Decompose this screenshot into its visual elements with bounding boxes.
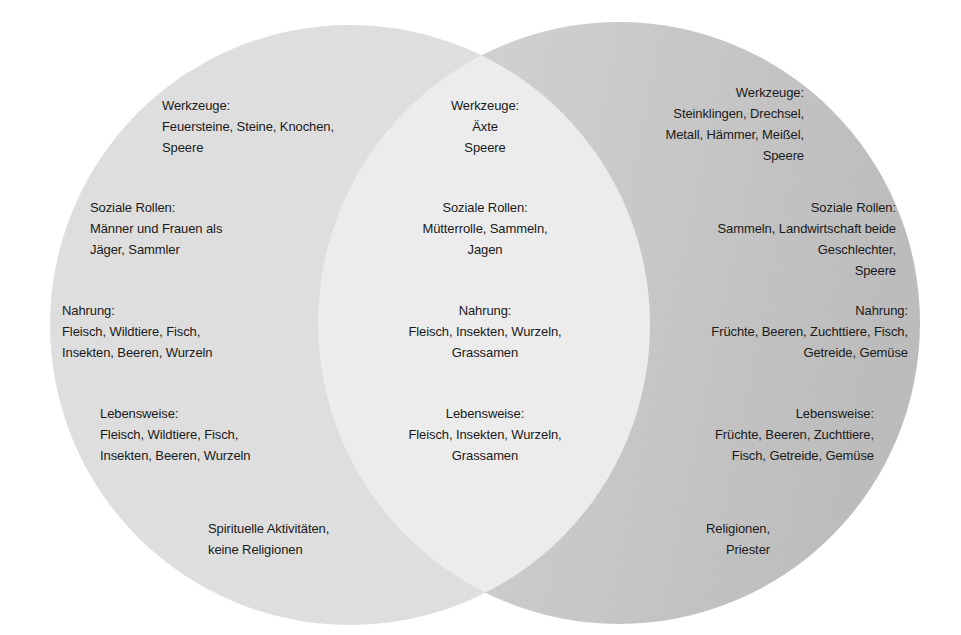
label-text: Metall, Hämmer, Meißel, [665, 124, 804, 145]
label-text: Sammeln, Landwirtschaft beide [718, 218, 896, 239]
label-text: Fleisch, Wildtiere, Fisch, [100, 424, 250, 445]
label-text: Speere [385, 137, 585, 158]
label-text: Speere [665, 145, 804, 166]
right-lebensweise: Lebensweise: Früchte, Beeren, Zuchttiere… [715, 403, 874, 466]
label-text: Fleisch, Wildtiere, Fisch, [62, 321, 212, 342]
label-text: Äxte [385, 116, 585, 137]
left-lebensweise: Lebensweise: Fleisch, Wildtiere, Fisch, … [100, 403, 250, 466]
left-werkzeuge: Werkzeuge: Feuersteine, Steine, Knochen,… [162, 95, 334, 158]
label-title: Werkzeuge: [385, 95, 585, 116]
label-title: Soziale Rollen: [90, 197, 222, 218]
label-text: Mütterrolle, Sammeln, [385, 218, 585, 239]
overlap-nahrung: Nahrung: Fleisch, Insekten, Wurzeln, Gra… [385, 300, 585, 363]
label-text: Geschlechter, [718, 239, 896, 260]
left-nahrung: Nahrung: Fleisch, Wildtiere, Fisch, Inse… [62, 300, 212, 363]
label-text: Religionen, [706, 518, 770, 539]
right-nahrung: Nahrung: Früchte, Beeren, Zuchttiere, Fi… [711, 300, 908, 363]
right-werkzeuge: Werkzeuge: Steinklingen, Drechsel, Metal… [665, 82, 804, 166]
label-title: Werkzeuge: [665, 82, 804, 103]
label-text: Jäger, Sammler [90, 239, 222, 260]
label-title: Soziale Rollen: [718, 197, 896, 218]
right-soziale-rollen: Soziale Rollen: Sammeln, Landwirtschaft … [718, 197, 896, 281]
label-text: Früchte, Beeren, Zuchttiere, Fisch, [711, 321, 908, 342]
label-text: Fleisch, Insekten, Wurzeln, [385, 321, 585, 342]
label-text: Spirituelle Aktivitäten, [208, 518, 329, 539]
label-text: Getreide, Gemüse [711, 342, 908, 363]
label-text: Früchte, Beeren, Zuchttiere, [715, 424, 874, 445]
label-text: keine Religionen [208, 539, 329, 560]
label-text: Männer und Frauen als [90, 218, 222, 239]
label-title: Werkzeuge: [162, 95, 334, 116]
label-text: Speere [162, 137, 334, 158]
label-text: Priester [706, 539, 770, 560]
label-text: Steinklingen, Drechsel, [665, 103, 804, 124]
label-title: Lebensweise: [715, 403, 874, 424]
label-title: Lebensweise: [100, 403, 250, 424]
label-text: Insekten, Beeren, Wurzeln [62, 342, 212, 363]
label-title: Nahrung: [62, 300, 212, 321]
label-title: Nahrung: [711, 300, 908, 321]
right-religion: Religionen, Priester [706, 518, 770, 560]
overlap-werkzeuge: Werkzeuge: Äxte Speere [385, 95, 585, 158]
overlap-lebensweise: Lebensweise: Fleisch, Insekten, Wurzeln,… [385, 403, 585, 466]
left-soziale-rollen: Soziale Rollen: Männer und Frauen als Jä… [90, 197, 222, 260]
label-text: Fleisch, Insekten, Wurzeln, [385, 424, 585, 445]
label-title: Nahrung: [385, 300, 585, 321]
label-text: Grassamen [385, 445, 585, 466]
label-text: Feuersteine, Steine, Knochen, [162, 116, 334, 137]
overlap-soziale-rollen: Soziale Rollen: Mütterrolle, Sammeln, Ja… [385, 197, 585, 260]
label-title: Soziale Rollen: [385, 197, 585, 218]
label-text: Insekten, Beeren, Wurzeln [100, 445, 250, 466]
label-text: Speere [718, 260, 896, 281]
label-title: Lebensweise: [385, 403, 585, 424]
left-religion: Spirituelle Aktivitäten, keine Religione… [208, 518, 329, 560]
label-text: Jagen [385, 239, 585, 260]
label-text: Grassamen [385, 342, 585, 363]
label-text: Fisch, Getreide, Gemüse [715, 445, 874, 466]
